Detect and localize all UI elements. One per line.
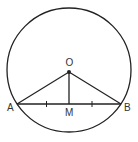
label-o: O: [66, 57, 74, 68]
circle-chord-diagram: O A B M: [0, 0, 138, 142]
center-point-o: [67, 70, 71, 74]
label-m: M: [65, 107, 73, 118]
segment-oa: [17, 72, 69, 104]
label-a: A: [7, 102, 14, 113]
segment-ob: [69, 72, 121, 104]
label-b: B: [124, 102, 131, 113]
